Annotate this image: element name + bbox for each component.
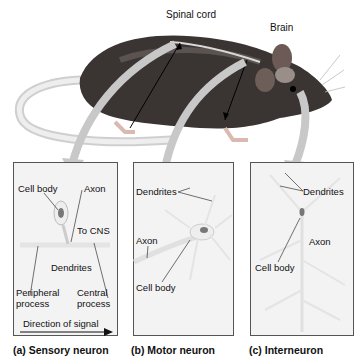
inter-cell-body-label: Cell body — [255, 262, 295, 273]
inter-dendrites-label: Dendrites — [303, 186, 344, 197]
inter-axon-label: Axon — [309, 236, 331, 247]
interneuron-drawing — [0, 0, 360, 363]
interneuron-caption: (c) Interneuron — [249, 344, 323, 356]
